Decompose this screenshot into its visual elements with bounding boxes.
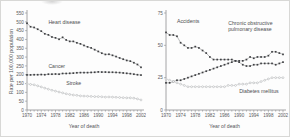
svg-text:2002: 2002 <box>278 113 289 118</box>
svg-text:1986: 1986 <box>219 113 230 118</box>
svg-text:Accidents: Accidents <box>177 18 200 24</box>
svg-text:550: 550 <box>16 11 24 16</box>
left-plot-area: 0501001502002503003504004505005501970197… <box>1 1 146 137</box>
svg-text:50: 50 <box>158 43 164 48</box>
right-plot-area: 0255075197019741978198219861990199419982… <box>146 1 290 137</box>
mortality-trends-figure: 0501001502002503003504004505005501970197… <box>0 0 290 137</box>
svg-text:150: 150 <box>16 81 24 86</box>
chart-panel-right: 0255075197019741978198219861990199419982… <box>146 1 290 137</box>
chart-panel-left: 0501001502002503003504004505005501970197… <box>1 1 146 137</box>
svg-text:1990: 1990 <box>234 113 245 118</box>
svg-text:1974: 1974 <box>36 113 47 118</box>
svg-text:1978: 1978 <box>50 113 61 118</box>
svg-text:1990: 1990 <box>93 113 104 118</box>
svg-text:1994: 1994 <box>107 113 118 118</box>
svg-text:100: 100 <box>16 90 24 95</box>
svg-text:1998: 1998 <box>263 113 274 118</box>
svg-text:500: 500 <box>16 20 24 25</box>
svg-text:350: 350 <box>16 46 24 51</box>
svg-text:250: 250 <box>16 64 24 69</box>
svg-text:2002: 2002 <box>136 113 146 118</box>
svg-text:Year of death: Year of death <box>209 123 240 129</box>
svg-text:0: 0 <box>21 108 24 113</box>
svg-text:Heart disease: Heart disease <box>48 19 80 25</box>
svg-text:1970: 1970 <box>22 113 33 118</box>
svg-text:Year of death: Year of death <box>69 123 100 129</box>
svg-text:400: 400 <box>16 37 24 42</box>
svg-text:Cancer: Cancer <box>48 63 65 69</box>
svg-text:1978: 1978 <box>190 113 201 118</box>
svg-text:75: 75 <box>158 11 164 16</box>
svg-text:pulmonary disease: pulmonary disease <box>228 26 272 32</box>
svg-text:Stroke: Stroke <box>66 80 81 86</box>
svg-text:1970: 1970 <box>161 113 172 118</box>
svg-text:450: 450 <box>16 28 24 33</box>
svg-text:1974: 1974 <box>176 113 187 118</box>
svg-text:0: 0 <box>160 108 163 113</box>
svg-text:1982: 1982 <box>205 113 216 118</box>
svg-text:25: 25 <box>158 75 164 80</box>
svg-text:300: 300 <box>16 55 24 60</box>
svg-text:50: 50 <box>19 99 25 104</box>
svg-text:200: 200 <box>16 72 24 77</box>
svg-text:Rate per 100,000 population: Rate per 100,000 population <box>8 29 14 95</box>
svg-text:1982: 1982 <box>65 113 76 118</box>
svg-text:1998: 1998 <box>122 113 133 118</box>
svg-text:1994: 1994 <box>249 113 260 118</box>
svg-text:Chronic obstructive: Chronic obstructive <box>228 20 273 26</box>
svg-text:1986: 1986 <box>79 113 90 118</box>
svg-text:Diabetes mellitus: Diabetes mellitus <box>239 88 279 94</box>
